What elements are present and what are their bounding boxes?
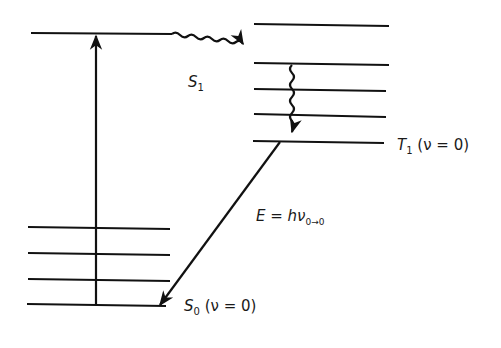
s0-level-1 xyxy=(28,279,170,281)
t1-level-0 xyxy=(253,141,384,143)
t1-level-4 xyxy=(254,24,389,26)
t1-level-2 xyxy=(254,89,386,91)
t1-label: T1 (ν = 0) xyxy=(397,136,469,154)
s0-level-2 xyxy=(28,253,170,255)
t1-level-1 xyxy=(254,114,386,117)
intersystem-crossing-wavy-arrow xyxy=(172,33,243,44)
jablonski-diagram xyxy=(0,0,501,348)
s0-label: S0 (ν = 0) xyxy=(184,297,256,315)
vibrational-relaxation-wavy-arrow xyxy=(290,65,294,132)
energy-equation-label: E = hν0→0 xyxy=(256,207,325,225)
s0-level-3 xyxy=(28,227,170,229)
s1-level xyxy=(31,33,172,34)
t1-level-3 xyxy=(254,63,389,65)
s1-label: S1 xyxy=(188,73,204,91)
